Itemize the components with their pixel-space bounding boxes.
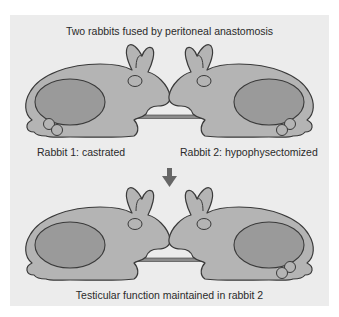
top-rabbit-2: [169, 45, 313, 138]
rabbit-1-label: Rabbit 1: castrated: [37, 146, 125, 158]
rabbit-2-label: Rabbit 2: hypophysectomized: [180, 146, 318, 158]
diagram-caption: Testicular function maintained in rabbit…: [0, 289, 339, 301]
down-arrow-icon: [162, 168, 177, 187]
bottom-rabbit-2: [169, 188, 313, 281]
top-rabbit-1: [26, 45, 170, 138]
bottom-rabbit-1: [26, 188, 170, 281]
rabbit-diagram: [0, 0, 339, 317]
